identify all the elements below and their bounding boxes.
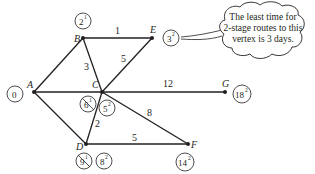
vertex-a: [32, 90, 36, 94]
vertex-e: [150, 36, 154, 40]
vertex-g: [223, 90, 227, 94]
vertex-label-d: D: [75, 141, 84, 152]
weight-b-e: 1: [115, 25, 120, 36]
vertex-label-b: B: [74, 33, 80, 44]
label-ring-f: 14 2: [176, 153, 194, 171]
callout-line-2: 2-stage routes to this: [224, 23, 303, 33]
svg-text:14: 14: [178, 158, 188, 168]
weight-c-d: 2: [95, 118, 100, 129]
edge-c-e: [102, 38, 152, 92]
svg-text:1: 1: [84, 14, 87, 20]
label-ring-c: 5 2: [99, 100, 115, 116]
label-ring-a: 0: [7, 86, 23, 102]
weight-c-f: 8: [147, 107, 152, 118]
callout-pointer: [181, 30, 222, 40]
label-ring-e: 3 2: [163, 30, 179, 46]
label-ring-d: 8 2: [96, 153, 112, 169]
vertex-b: [81, 36, 85, 40]
network-diagram: A B E C G D F 1 3 5 12 8 2 5 0 2 1 3 2 6…: [0, 0, 315, 174]
svg-text:2: 2: [79, 17, 84, 27]
svg-text:2: 2: [172, 31, 175, 37]
label-ring-d-old: 9 1: [76, 153, 92, 169]
label-ring-g: 18 2: [233, 85, 251, 103]
svg-text:2: 2: [105, 154, 108, 160]
vertex-label-e: E: [149, 24, 156, 35]
svg-text:2: 2: [108, 101, 111, 107]
label-ring-c-old: 6 1: [80, 96, 96, 112]
callout-cloud: The least time for 2-stage routes to thi…: [220, 2, 305, 59]
weight-d-f: 5: [132, 132, 137, 143]
edge-c-f: [102, 92, 188, 144]
label-ring-b: 2 1: [75, 13, 91, 29]
svg-text:2: 2: [188, 155, 191, 161]
weight-c-e: 5: [121, 53, 126, 64]
vertex-f: [186, 142, 190, 146]
callout-line-3: vertex is 3 days.: [232, 34, 294, 44]
svg-text:1: 1: [89, 97, 92, 103]
weight-b-c: 3: [84, 61, 89, 72]
edge-a-d: [34, 92, 86, 144]
vertex-label-c: C: [92, 79, 99, 90]
vertex-d: [84, 142, 88, 146]
vertex-label-f: F: [190, 139, 198, 150]
svg-text:18: 18: [235, 90, 245, 100]
svg-text:0: 0: [12, 90, 17, 100]
svg-text:2: 2: [245, 87, 248, 93]
edge-a-b: [34, 38, 83, 92]
vertex-label-a: A: [26, 79, 34, 90]
weight-c-g: 12: [163, 78, 173, 89]
callout-line-1: The least time for: [229, 12, 297, 22]
vertex-c: [100, 90, 104, 94]
svg-text:1: 1: [85, 154, 88, 160]
vertex-label-g: G: [222, 78, 229, 89]
